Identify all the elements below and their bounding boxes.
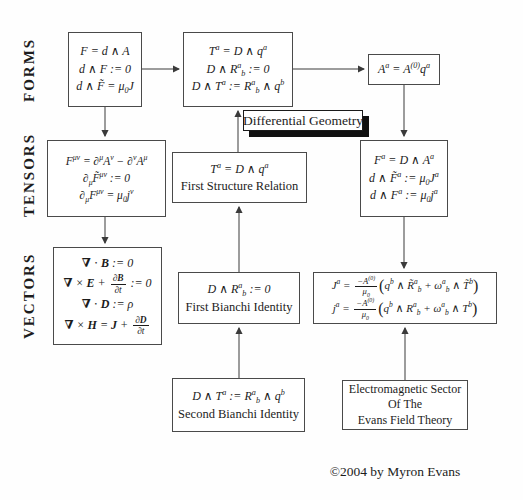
field-equations-box: Fa = D ∧ Aa d ∧ F̃a := μ0Ja d ∧ Fa := μ0… <box>360 140 448 217</box>
equation-current-j-lower: ja = −A(0)μ0(qb ∧ Rab + ωab ∧ Tb) <box>331 298 480 321</box>
em-sector-box: Electromagnetic Sector Of The Evans Fiel… <box>342 380 468 430</box>
first-structure-relation-box: Ta = D ∧ qa First Structure Relation <box>172 152 307 203</box>
first-bianchi-identity-box: D ∧ Rab := 0 First Bianchi Identity <box>178 272 300 324</box>
copyright-notice: ©2004 by Myron Evans <box>325 464 465 480</box>
equation-curl-e: ∇ × E + ∂B∂t := 0 <box>61 272 153 296</box>
equation-dual-tensor: ∂μF̃μν := 0 <box>81 170 132 187</box>
differential-geometry-label: Differential Geometry <box>243 110 363 131</box>
equation-torsion: Ta = D ∧ qa <box>207 43 269 61</box>
equation-dftilde-a: d ∧ F̃a := μ0Ja <box>367 170 441 188</box>
second-bianchi-identity-box: D ∧ Ta := Rab ∧ qb Second Bianchi Identi… <box>172 378 305 432</box>
equation-div-b: ∇ ⋅ B := 0 <box>80 255 135 273</box>
equation-f-da: F = d ∧ A <box>78 43 131 61</box>
equation-fa: Fa = D ∧ Aa <box>372 152 436 170</box>
equation-df-zero: d ∧ F := 0 <box>77 61 133 79</box>
equation-dfa: d ∧ Fa := μ0ja <box>368 187 440 205</box>
first-bianchi-caption: First Bianchi Identity <box>186 299 293 315</box>
row-label-tensors: TENSORS <box>21 140 41 217</box>
equation-curvature: D ∧ Rab := 0 <box>204 61 271 79</box>
em-sector-line-2: Of The <box>388 397 422 413</box>
equation-current-j-upper: Ja = −A(0)μ0(qb ∧ R̃ab + ωab ∧ T̃b) <box>330 275 481 298</box>
equation-second-bianchi: D ∧ Ta := Rab ∧ qb <box>190 388 287 406</box>
equation-div-d: ∇ ⋅ D := ρ <box>80 296 136 314</box>
em-sector-line-1: Electromagnetic Sector <box>349 382 461 398</box>
potential-box: Aa = A(0)qa <box>368 54 440 85</box>
equation-torsion-curv: D ∧ Ta := Rab ∧ qb <box>190 78 287 96</box>
equation-tensor-current: ∂μFμν = μ0jν <box>78 187 136 204</box>
equation-curl-h: ∇ × H = J + ∂D∂t <box>62 314 152 338</box>
equation-first-bianchi: D ∧ Rab := 0 <box>205 281 272 299</box>
equation-dftilde-j: d ∧ F̃ = μ0J <box>74 78 136 96</box>
diagram-canvas: FORMS TENSORS VECTORS F = d ∧ A d ∧ F :=… <box>0 0 523 500</box>
equation-first-structure: Ta = D ∧ qa <box>208 161 270 179</box>
equation-fmunu: Fμν = ∂μAν − ∂νAμ <box>64 153 150 170</box>
geometry-equations-box: Ta = D ∧ qa D ∧ Rab := 0 D ∧ Ta := Rab ∧… <box>183 32 293 107</box>
row-label-forms: FORMS <box>21 33 41 107</box>
current-equations-box: Ja = −A(0)μ0(qb ∧ R̃ab + ωab ∧ T̃b) ja =… <box>313 272 497 324</box>
forms-equations-box: F = d ∧ A d ∧ F := 0 d ∧ F̃ = μ0J <box>68 32 142 107</box>
first-structure-caption: First Structure Relation <box>181 178 298 194</box>
em-sector-line-3: Evans Field Theory <box>358 413 452 429</box>
second-bianchi-caption: Second Bianchi Identity <box>178 406 299 422</box>
tensors-equations-box: Fμν = ∂μAν − ∂νAμ ∂μF̃μν := 0 ∂μFμν = μ0… <box>47 140 166 217</box>
vectors-equations-box: ∇ ⋅ B := 0 ∇ × E + ∂B∂t := 0 ∇ ⋅ D := ρ … <box>53 247 162 345</box>
equation-potential: Aa = A(0)qa <box>376 61 432 79</box>
row-label-vectors: VECTORS <box>21 247 41 345</box>
